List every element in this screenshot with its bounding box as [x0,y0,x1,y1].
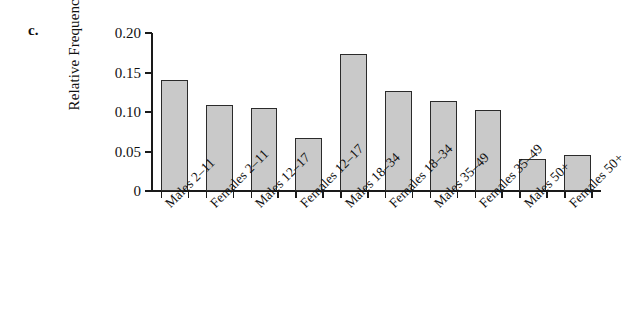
x-tick-mark [206,191,208,198]
y-tick-label: 0.05 [115,143,141,160]
y-tick-mark [145,190,152,192]
x-tick-mark [340,191,342,198]
x-tick-mark [251,191,253,198]
y-tick-label: 0.10 [115,104,141,121]
bar [385,91,412,191]
y-tick-mark [145,32,152,34]
y-tick-label: 0.20 [115,25,141,42]
y-tick-mark [145,151,152,153]
bar [161,80,188,191]
panel-label: c. [28,22,39,39]
x-tick-mark [519,191,521,198]
x-tick-mark [475,191,477,198]
y-axis-title: Relative Frequency [63,0,85,141]
x-tick-mark [385,191,387,198]
x-tick-mark [295,191,297,198]
y-tick-label: 0.15 [115,64,141,81]
figure-panel-c: c. Relative Frequency 0.200.150.100.050 … [0,0,639,319]
x-tick-mark [161,191,163,198]
x-tick-mark [564,191,566,198]
y-tick-label: 0 [134,183,142,200]
y-tick-mark [145,72,152,74]
y-tick-mark [145,111,152,113]
x-tick-mark [430,191,432,198]
